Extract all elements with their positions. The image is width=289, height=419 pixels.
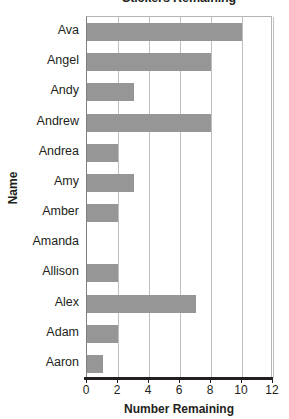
bar — [87, 204, 118, 222]
bar — [87, 144, 118, 162]
bar-series — [87, 17, 271, 378]
y-tick-label: Allison — [0, 264, 79, 278]
bar — [87, 23, 242, 41]
y-tick-label: Adam — [0, 325, 79, 339]
x-tick-label: 12 — [257, 383, 287, 397]
plot-area — [86, 16, 272, 378]
x-tick-label: 2 — [102, 383, 132, 397]
bar — [87, 325, 118, 343]
x-axis-label: Number Remaining — [86, 402, 272, 416]
y-tick-label: Andrea — [0, 144, 79, 158]
bar — [87, 264, 118, 282]
bar — [87, 355, 103, 373]
y-tick-label: Andy — [0, 83, 79, 97]
bar — [87, 83, 134, 101]
y-tick-label: Amy — [0, 174, 79, 188]
y-tick-label: Amanda — [0, 234, 79, 248]
x-tick-label: 6 — [164, 383, 194, 397]
y-tick-label: Andrew — [0, 114, 79, 128]
y-tick-label: Amber — [0, 204, 79, 218]
bar — [87, 295, 196, 313]
bar — [87, 53, 211, 71]
y-tick-label: Alex — [0, 295, 79, 309]
y-tick-label: Angel — [0, 53, 79, 67]
bar — [87, 174, 134, 192]
y-tick-label: Ava — [0, 23, 79, 37]
bar-chart: Stickers Remaining Name 024681012 AvaAng… — [0, 0, 289, 419]
x-tick-label: 4 — [133, 383, 163, 397]
bar — [87, 114, 211, 132]
x-tick-label: 0 — [71, 383, 101, 397]
y-tick-label: Aaron — [0, 355, 79, 369]
gridline — [273, 17, 274, 378]
x-tick-label: 10 — [226, 383, 256, 397]
chart-title: Stickers Remaining — [86, 0, 272, 5]
x-tick-label: 8 — [195, 383, 225, 397]
